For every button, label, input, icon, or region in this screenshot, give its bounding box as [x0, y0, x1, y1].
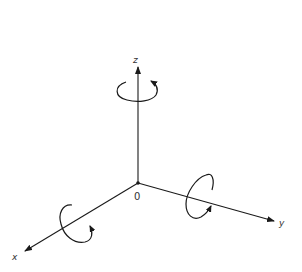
- x-axis-line: [25, 183, 138, 251]
- y-axis-line: [138, 183, 274, 221]
- origin-dot: [136, 181, 140, 185]
- z-axis-label: z: [132, 55, 138, 65]
- y-rotation-arrow: [186, 174, 213, 218]
- coordinate-diagram: z x y 0: [0, 0, 302, 272]
- y-rotation-arrow-icon: [186, 174, 213, 218]
- x-axis-label: x: [11, 252, 18, 262]
- z-rotation-arrow: [117, 81, 157, 101]
- y-axis-label: y: [278, 218, 285, 228]
- x-axis: x: [11, 183, 138, 262]
- x-rotation-arrow: [60, 205, 92, 242]
- z-rotation-arrow-icon: [117, 81, 157, 101]
- x-rotation-arrow-icon: [60, 205, 92, 242]
- z-axis: z: [132, 55, 138, 183]
- origin-label: 0: [134, 191, 140, 202]
